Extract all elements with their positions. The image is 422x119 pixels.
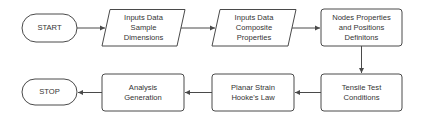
analysis-node: Analysis Generation [102, 74, 184, 111]
tensile-node: Tensile Test Conditions [321, 74, 402, 111]
planar-label: Planar Strain Hooke's Law [231, 83, 275, 103]
start-node: START [22, 14, 77, 42]
inputs-sample-label: Inputs Data Sample Dimensions [124, 13, 164, 43]
stop-label: STOP [39, 87, 60, 97]
inputs-composite-label: Inputs Data Composite Properties [235, 13, 274, 43]
inputs-composite-node: Inputs Data Composite Properties [214, 9, 294, 46]
planar-node: Planar Strain Hooke's Law [212, 74, 294, 111]
nodes-properties-label: Nodes Properties and Positions Definiton… [332, 13, 391, 43]
nodes-properties-node: Nodes Properties and Positions Definiton… [321, 9, 402, 46]
analysis-label: Analysis Generation [124, 83, 162, 103]
tensile-label: Tensile Test Conditions [342, 83, 382, 103]
inputs-sample-node: Inputs Data Sample Dimensions [104, 9, 183, 46]
stop-node: STOP [22, 79, 77, 105]
start-label: START [37, 23, 61, 33]
